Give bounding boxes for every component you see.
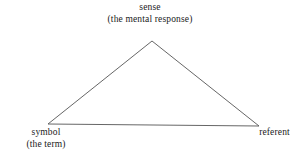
semiotic-triangle-diagram: sense (the mental response) symbol (the …	[0, 0, 300, 162]
edge-symbol-to-sense	[48, 41, 152, 124]
edge-sense-to-referent	[152, 41, 259, 126]
vertex-label-referent: referent	[249, 127, 300, 139]
vertex-label-sense: sense (the mental response)	[0, 2, 300, 25]
vertex-label-symbol: symbol (the term)	[0, 127, 92, 150]
vertex-label-referent-primary: referent	[259, 127, 290, 137]
vertex-label-symbol-primary: symbol	[0, 127, 92, 139]
vertex-label-symbol-secondary: (the term)	[0, 139, 92, 151]
vertex-label-sense-secondary: (the mental response)	[0, 14, 300, 26]
vertex-label-sense-primary: sense	[0, 2, 300, 14]
edge-symbol-to-referent	[48, 124, 259, 126]
